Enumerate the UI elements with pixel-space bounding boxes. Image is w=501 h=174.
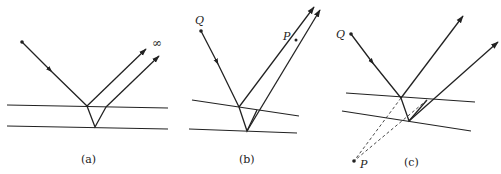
- infinity-label: ∞: [152, 36, 162, 50]
- reflected-ray-top: [239, 7, 314, 107]
- virtual-extension-1: [354, 98, 401, 161]
- incident-ray: [22, 42, 87, 106]
- refracted-ray-in-film: [401, 98, 427, 121]
- image-point-p: [295, 39, 298, 42]
- panel-c: Q P (c): [336, 16, 498, 171]
- refracted-ray-in-film: [87, 106, 106, 127]
- reflected-ray-top: [401, 16, 463, 98]
- top-surface-line: [346, 93, 475, 102]
- thin-film-reflection-figure: ∞ (a) Q P (b) Q P (c): [0, 0, 501, 174]
- incident-ray: [351, 34, 401, 98]
- bottom-surface-line: [7, 126, 168, 129]
- label-q: Q: [336, 28, 345, 41]
- virtual-image-point-p: [352, 159, 356, 163]
- caption-b: (b): [239, 153, 255, 166]
- bottom-surface-line: [189, 129, 297, 133]
- label-q: Q: [195, 14, 204, 27]
- label-p: P: [359, 158, 368, 171]
- virtual-extension-2: [354, 100, 427, 161]
- top-surface-line: [192, 100, 299, 116]
- incident-ray: [201, 31, 239, 107]
- panel-b: Q P (b): [189, 7, 320, 166]
- caption-c: (c): [404, 156, 419, 169]
- label-p: P: [282, 30, 291, 43]
- reflected-ray-bottom: [106, 56, 159, 107]
- caption-a: (a): [81, 153, 96, 166]
- reflected-ray-bottom: [247, 10, 320, 131]
- panel-a: ∞ (a): [7, 36, 168, 166]
- reflected-ray-bottom: [409, 42, 498, 121]
